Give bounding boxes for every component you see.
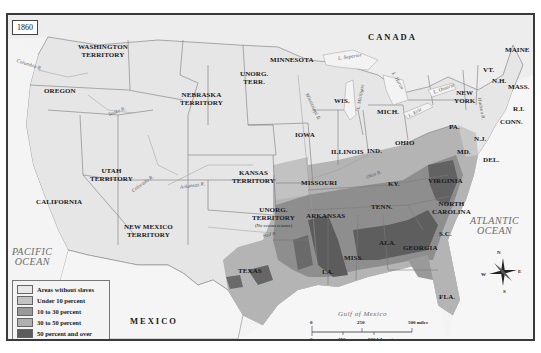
legend-swatch: [17, 329, 33, 338]
label-canada: CANADA: [368, 33, 417, 41]
label-rhode-island: R.I.: [513, 105, 525, 113]
label-utah-territory: UTAHTERRITORY: [90, 167, 133, 183]
legend-swatch: [17, 307, 33, 316]
label-iowa: IOWA: [295, 131, 315, 139]
label-pennsylvania: PA.: [449, 123, 460, 131]
year-label: 1860: [12, 20, 38, 35]
map-frame: 1860 CANADA MEXICO PACIFICOCEAN ATLANTIC…: [6, 13, 535, 341]
legend-item: Under 10 percent: [17, 295, 105, 306]
scale-km-0: 0: [310, 337, 313, 341]
label-vermont: VT.: [483, 66, 494, 74]
label-ohio: OHIO: [395, 139, 414, 147]
legend-item: 30 to 50 percent: [17, 317, 105, 328]
label-indiana: IND.: [367, 147, 382, 155]
label-connecticut: CONN.: [500, 118, 523, 126]
label-california: CALIFORNIA: [36, 198, 82, 206]
label-maine: MAINE: [505, 46, 530, 54]
label-kansas-territory: KANSASTERRITORY: [232, 169, 275, 185]
label-missouri: MISSOURI: [301, 179, 337, 187]
label-illinois: ILLINOIS: [331, 148, 364, 156]
label-new-york: NEWYORK: [454, 89, 475, 105]
label-unorganized-territory-north: UNORG.TERR.: [240, 70, 268, 86]
label-florida: FLA.: [439, 293, 455, 301]
legend-swatch: [17, 285, 33, 294]
label-oregon: OREGON: [44, 87, 76, 95]
label-unorganized-territory-south: UNORG.TERRITORY(No census returns): [252, 206, 295, 230]
scale-km-500: 500 kilometers: [368, 337, 399, 341]
label-new-hampshire: N.H.: [492, 77, 506, 85]
label-mexico: MEXICO: [130, 317, 178, 325]
label-alabama: ALA.: [379, 239, 396, 247]
legend-item: 50 percent and over: [17, 328, 105, 339]
label-delaware: DEL.: [483, 156, 500, 164]
legend-item: 10 to 30 percent: [17, 306, 105, 317]
label-north-carolina: NORTHCAROLINA: [432, 200, 471, 216]
label-kentucky: KY.: [388, 180, 400, 188]
legend-swatch: [17, 296, 33, 305]
label-new-jersey: N.J.: [474, 135, 486, 143]
scale-miles-0: 0: [310, 320, 313, 325]
legend-swatch: [17, 318, 33, 327]
label-pacific-ocean: PACIFICOCEAN: [12, 247, 53, 267]
scale-miles-250: 250: [357, 320, 365, 325]
label-virginia: VIRGINIA: [428, 177, 463, 185]
label-washington-territory: WASHINGTONTERRITORY: [78, 43, 128, 59]
label-atlantic-ocean: ATLANTICOCEAN: [470, 216, 519, 236]
scale-miles-500: 500 miles: [408, 320, 428, 325]
label-michigan: MICH.: [377, 108, 399, 116]
legend: Areas without slaves Under 10 percent 10…: [12, 280, 110, 341]
label-massachusetts: MASS.: [508, 83, 530, 91]
label-nebraska-territory: NEBRASKATERRITORY: [180, 91, 223, 107]
label-new-mexico-territory: NEW MEXICOTERRITORY: [124, 223, 173, 239]
label-south-carolina: S.C.: [439, 230, 452, 238]
scale-bar: 0 250 500 miles 0 250 500 kilometers: [308, 317, 468, 341]
scale-km-250: 250: [338, 337, 346, 341]
compass-rose-icon: N S E W: [486, 255, 520, 289]
label-texas: TEXAS: [238, 267, 262, 275]
label-mississippi: MISS.: [344, 254, 363, 262]
label-louisiana: LA.: [322, 268, 334, 276]
label-wisconsin: WIS.: [334, 97, 350, 105]
label-tennessee: TENN.: [371, 203, 393, 211]
label-georgia: GEORGIA: [403, 244, 438, 252]
label-arkansas: ARKANSAS: [306, 212, 345, 220]
legend-item: Areas without slaves: [17, 284, 105, 295]
label-minnesota: MINNESOTA: [270, 56, 314, 64]
label-maryland: MD.: [457, 148, 471, 156]
